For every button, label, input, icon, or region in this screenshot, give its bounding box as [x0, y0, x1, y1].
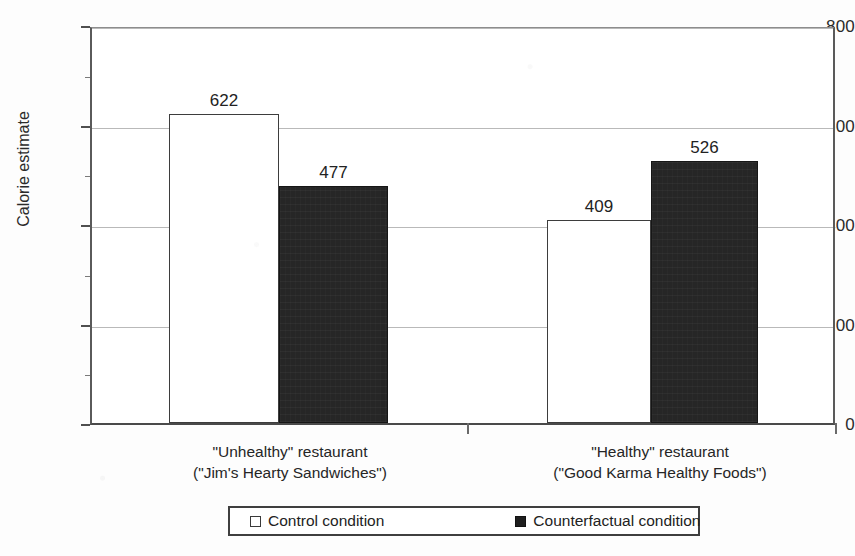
filled-square-swatch-icon — [515, 516, 526, 527]
x-category-line1: "Unhealthy" restaurant — [213, 443, 368, 460]
bar-healthy-counterfactual — [651, 161, 758, 423]
bar-value-healthy-control: 409 — [547, 197, 651, 217]
x-category-line2: ("Good Karma Healthy Foods") — [470, 462, 850, 483]
y-axis-title: Calorie estimate — [15, 69, 33, 269]
bar-unhealthy-counterfactual — [279, 186, 388, 423]
y-axis-major-tick — [81, 26, 90, 28]
category-separator-tick — [467, 423, 469, 434]
chart-legend: Control condition Counterfactual conditi… — [228, 506, 700, 536]
bar-value-unhealthy-counterfactual: 477 — [279, 163, 388, 183]
x-category-line1: "Healthy" restaurant — [591, 443, 729, 460]
gridline — [92, 28, 833, 29]
y-axis-major-tick — [81, 424, 90, 426]
bar-chart-figure: Calorie estimate 0200400600800 622 477 4… — [0, 0, 855, 556]
category-separator-tick — [835, 423, 837, 434]
x-axis-category-label-unhealthy: "Unhealthy" restaurant ("Jim's Hearty Sa… — [110, 441, 470, 483]
plot-area: 622 477 409 526 — [90, 27, 835, 425]
y-axis-major-tick — [81, 325, 90, 327]
bar-value-healthy-counterfactual: 526 — [651, 138, 758, 158]
legend-item-counterfactual-condition: Counterfactual condition — [515, 512, 700, 530]
bar-value-unhealthy-control: 622 — [169, 91, 279, 111]
y-axis-major-tick — [81, 225, 90, 227]
legend-label-control: Control condition — [268, 512, 384, 530]
x-category-line2: ("Jim's Hearty Sandwiches") — [110, 462, 470, 483]
bar-unhealthy-control — [169, 114, 279, 423]
bar-healthy-control — [547, 220, 651, 423]
x-axis-category-label-healthy: "Healthy" restaurant ("Good Karma Health… — [470, 441, 850, 483]
open-square-swatch-icon — [250, 516, 261, 527]
legend-label-counterfactual: Counterfactual condition — [533, 512, 700, 530]
y-axis-major-tick — [81, 126, 90, 128]
y-axis-title-container: Calorie estimate — [0, 0, 90, 556]
legend-item-control-condition: Control condition — [250, 512, 384, 530]
